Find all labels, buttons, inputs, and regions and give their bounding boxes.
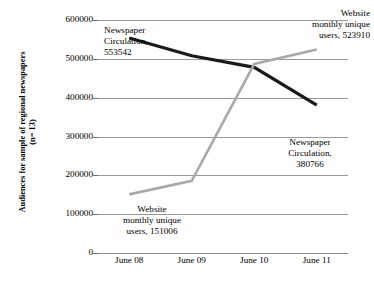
series-line	[129, 50, 317, 195]
y-tick-label: 600000	[65, 15, 93, 24]
y-tick-label: 300000	[65, 132, 93, 141]
x-tick-label: June 08	[115, 256, 143, 265]
x-tick-label: June 10	[240, 256, 268, 265]
x-tick-label: June 11	[303, 256, 331, 265]
y-tick-label: 500000	[65, 54, 93, 63]
y-tick-label: 0	[88, 248, 93, 257]
annotation-newspaper-end: Newspaper Circulation, 380766	[250, 137, 370, 171]
annotation-newspaper-start: Newspaper Circulation, 553542	[104, 25, 190, 59]
annotation-website-start: Website monthly unique users, 151006	[88, 204, 216, 238]
annotation-website-end: Website monthly unique users, 523910	[258, 8, 370, 42]
y-axis-title: Audiences for sample of regional newspap…	[18, 7, 38, 257]
line-chart: Audiences for sample of regional newspap…	[0, 0, 374, 284]
x-axis-labels: June 08June 09June 10June 11	[98, 256, 348, 272]
x-tick-label: June 09	[178, 256, 206, 265]
y-tick-mark	[93, 253, 98, 254]
y-tick-label: 200000	[65, 171, 93, 180]
gridline	[98, 253, 348, 254]
y-tick-label: 400000	[65, 93, 93, 102]
